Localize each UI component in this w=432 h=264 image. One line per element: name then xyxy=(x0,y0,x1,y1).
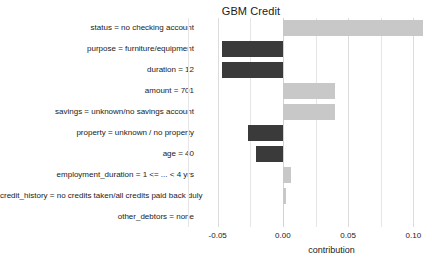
x-axis-tick-label: -0.05 xyxy=(209,231,227,240)
y-axis-label: property = unknown / no property xyxy=(0,128,194,138)
chart-container: GBM Credit status = no checking accountp… xyxy=(0,0,432,264)
x-axis-title-text: contribution xyxy=(308,245,355,255)
y-axis-label: other_debtors = none xyxy=(0,212,194,222)
y-axis-label: amount = 701 xyxy=(0,86,194,96)
gridline-major xyxy=(218,18,219,227)
bar xyxy=(222,62,283,78)
gridline-minor xyxy=(316,18,317,227)
chart-title-text: GBM Credit xyxy=(222,5,280,17)
bar xyxy=(256,146,283,162)
y-axis-label: status = no checking account xyxy=(0,23,194,33)
gridline-major xyxy=(348,18,349,227)
bar xyxy=(222,41,283,57)
x-axis-title: contribution xyxy=(199,245,432,255)
plot-area xyxy=(199,18,432,227)
y-axis-label: purpose = furniture/equipment xyxy=(0,44,194,54)
bar xyxy=(283,167,291,183)
bar xyxy=(283,188,287,204)
gridline-minor xyxy=(381,18,382,227)
gridline-major xyxy=(413,18,414,227)
bar xyxy=(283,83,335,99)
chart-title: GBM Credit xyxy=(0,5,432,17)
gridline-minor xyxy=(188,18,189,227)
y-axis-label: duration = 12 xyxy=(0,65,194,75)
x-axis-tick-label: 0.00 xyxy=(275,231,291,240)
y-axis-label: credit_history = no credits taken/all cr… xyxy=(0,191,194,201)
bar xyxy=(248,125,283,141)
x-axis-tick-label: 0.10 xyxy=(406,231,422,240)
y-axis-label: employment_duration = 1 <= ... < 4 yrs xyxy=(0,170,194,180)
x-axis-ticks: -0.050.000.050.10 xyxy=(199,231,432,243)
y-axis-label: savings = unknown/no savings account xyxy=(0,107,194,117)
bar xyxy=(283,20,423,36)
x-axis-tick-label: 0.05 xyxy=(340,231,356,240)
bar xyxy=(283,104,335,120)
y-axis-labels: status = no checking accountpurpose = fu… xyxy=(0,18,194,227)
y-axis-label: age = 40 xyxy=(0,149,194,159)
